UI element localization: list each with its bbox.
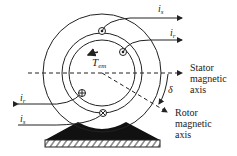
label-delta: δ xyxy=(168,84,173,95)
label-ir-left: ir xyxy=(20,92,26,107)
torque-arrow-icon xyxy=(88,52,98,55)
stator-axis-label: Stator magnetic axis xyxy=(190,62,227,95)
label-torque: Tem xyxy=(92,57,106,72)
label-is-left: is xyxy=(20,113,26,128)
rotor-axis-label: Rotor magnetic axis xyxy=(175,107,212,140)
machine-base xyxy=(45,122,160,147)
label-is-top: is xyxy=(158,3,164,18)
label-ir-top: ir xyxy=(170,27,176,42)
